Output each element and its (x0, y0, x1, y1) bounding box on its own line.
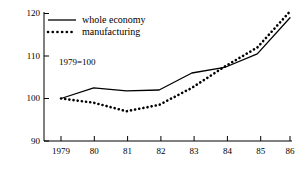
legend-label-whole-economy: whole economy (82, 14, 146, 25)
base-year-annotation: 1979=100 (59, 57, 96, 67)
legend-label-manufacturing: manufacturing (82, 26, 140, 37)
y-tick-label-90: 90 (14, 136, 40, 146)
y-tick-label-110: 110 (14, 51, 40, 61)
x-axis-ticks (61, 136, 290, 141)
x-tick-label-86: 86 (270, 146, 306, 156)
y-tick-label-100: 100 (14, 93, 40, 103)
line-chart: 120 110 100 90 1979 80 81 82 83 84 85 86… (0, 0, 306, 173)
y-tick-label-120: 120 (14, 8, 40, 18)
